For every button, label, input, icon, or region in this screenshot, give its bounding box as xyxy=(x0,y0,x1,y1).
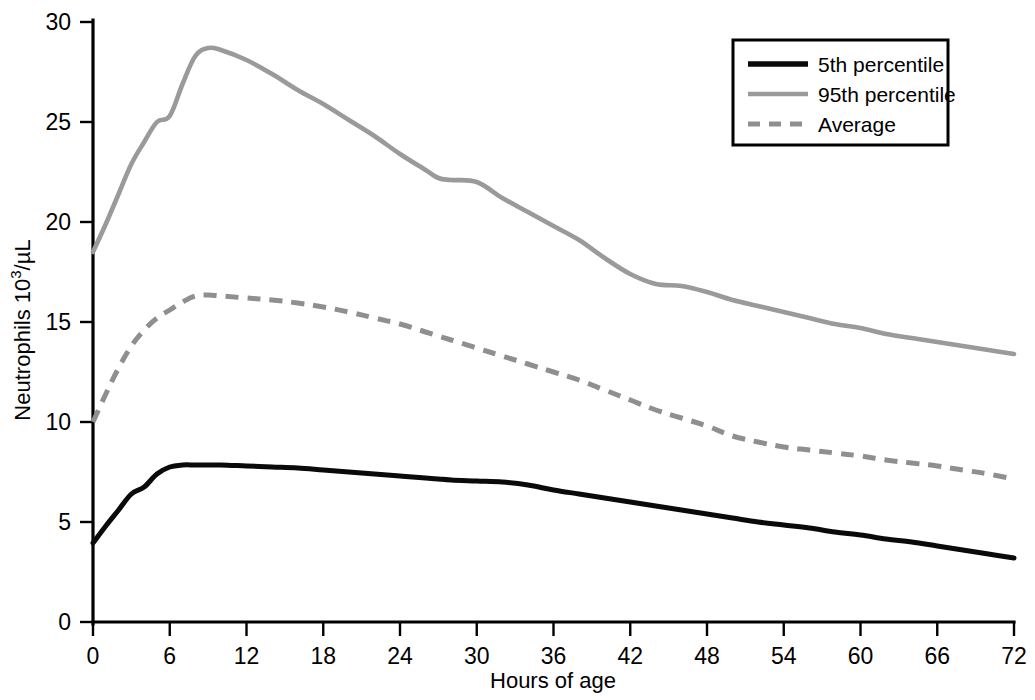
x-tick-label-12: 12 xyxy=(234,643,260,669)
series-line-5th-percentile xyxy=(93,465,1014,558)
legend: 5th percentile 95th percentile Average xyxy=(733,40,956,145)
y-tick-label-15: 15 xyxy=(45,309,71,335)
x-axis: 061218243036424854606672 xyxy=(87,622,1027,669)
y-axis-title-exponent: 3 xyxy=(7,270,24,278)
y-tick-label-30: 30 xyxy=(45,9,71,35)
x-tick-label-42: 42 xyxy=(617,643,643,669)
y-tick-label-10: 10 xyxy=(45,409,71,435)
x-tick-label-72: 72 xyxy=(1001,643,1027,669)
legend-label-average: Average xyxy=(818,113,896,136)
y-axis-title: Neutrophils 103/µL xyxy=(7,239,35,420)
x-tick-label-54: 54 xyxy=(771,643,797,669)
neutrophil-reference-chart: 051015202530 061218243036424854606672 Ho… xyxy=(0,0,1035,700)
y-axis-ticks xyxy=(80,22,93,622)
x-axis-ticks xyxy=(93,622,1014,636)
y-axis: 051015202530 xyxy=(45,9,93,635)
x-tick-label-36: 36 xyxy=(541,643,567,669)
legend-label-95th-percentile: 95th percentile xyxy=(818,83,956,106)
y-tick-label-5: 5 xyxy=(58,509,71,535)
x-tick-label-60: 60 xyxy=(848,643,874,669)
x-axis-title: Hours of age xyxy=(490,668,616,693)
y-tick-label-20: 20 xyxy=(45,209,71,235)
y-axis-title-base: Neutrophils 10 xyxy=(10,279,35,421)
y-axis-tick-labels: 051015202530 xyxy=(45,9,71,635)
x-tick-label-30: 30 xyxy=(464,643,490,669)
x-tick-label-66: 66 xyxy=(924,643,950,669)
legend-label-5th-percentile: 5th percentile xyxy=(818,53,944,76)
x-tick-label-18: 18 xyxy=(310,643,336,669)
y-tick-label-25: 25 xyxy=(45,109,71,135)
series-line-average xyxy=(93,295,1014,479)
chart-canvas: 051015202530 061218243036424854606672 Ho… xyxy=(0,0,1035,700)
y-axis-title-unit: /µL xyxy=(10,239,35,270)
x-tick-label-6: 6 xyxy=(163,643,176,669)
x-tick-label-48: 48 xyxy=(694,643,720,669)
x-tick-label-24: 24 xyxy=(387,643,413,669)
x-axis-tick-labels: 061218243036424854606672 xyxy=(87,643,1027,669)
svg-text:Neutrophils 103/µL: Neutrophils 103/µL xyxy=(7,239,35,420)
y-tick-label-0: 0 xyxy=(58,609,71,635)
x-tick-label-0: 0 xyxy=(87,643,100,669)
